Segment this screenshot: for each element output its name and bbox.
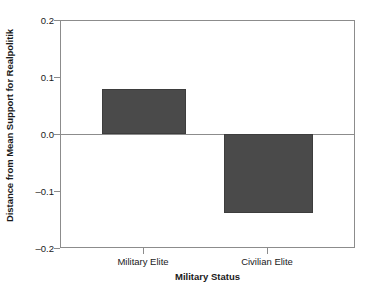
x-tick-label-military-elite: Military Elite [117, 256, 168, 267]
x-axis-title: Military Status [60, 271, 355, 282]
x-tick-mark-1 [267, 248, 268, 254]
x-tick-mark-0 [143, 248, 144, 254]
x-tick-label-civilian-elite: Civilian Elite [241, 256, 293, 267]
bar-chart-figure: Distance from Mean Support for Realpolit… [0, 0, 368, 295]
x-axis-ticks: Military Elite Civilian Elite [0, 0, 368, 295]
